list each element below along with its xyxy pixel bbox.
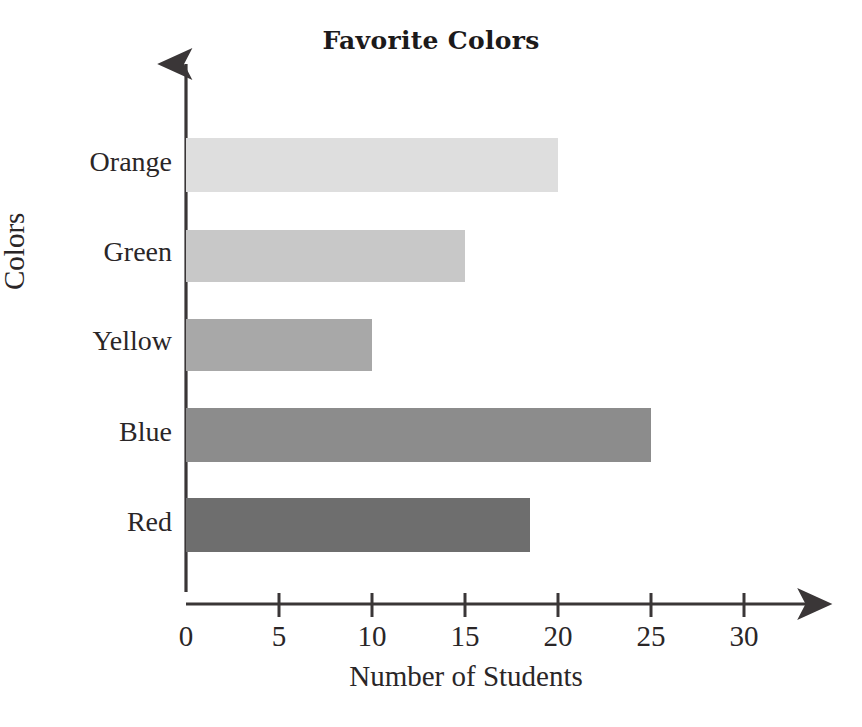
category-label-orange: Orange [0,146,172,178]
x-tick-label-5: 5 [249,620,309,653]
bar-green [186,230,465,282]
x-tick-label-25: 25 [621,620,681,653]
bar-orange [186,138,558,192]
x-tick-label-0: 0 [156,620,216,653]
x-tick-label-15: 15 [435,620,495,653]
category-label-red: Red [0,506,172,538]
category-label-blue: Blue [0,416,172,448]
x-tick-label-10: 10 [342,620,402,653]
bar-chart-figure: Favorite Colors [0,0,862,727]
x-axis-title: Number of Students [186,660,746,693]
y-axis-title: Colors [0,213,31,290]
category-label-yellow: Yellow [0,325,172,357]
x-tick-label-20: 20 [528,620,588,653]
x-tick-label-30: 30 [714,620,774,653]
bar-yellow [186,319,372,371]
bar-red [186,498,530,552]
bar-blue [186,408,651,462]
